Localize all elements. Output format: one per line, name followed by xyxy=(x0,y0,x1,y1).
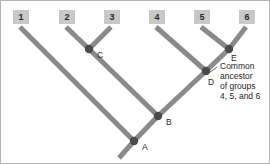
branch-tip-3-to-C xyxy=(89,27,111,49)
phylogenetic-tree-figure: 123456 ABCDE Commonancestorof groups4, 5… xyxy=(0,0,270,164)
taxon-box-5[interactable]: 5 xyxy=(194,10,210,24)
taxon-box-6[interactable]: 6 xyxy=(239,10,255,24)
taxon-label-1: 1 xyxy=(18,12,23,22)
taxon-box-3[interactable]: 3 xyxy=(104,10,120,24)
annotation-text: Commonancestorof groups4, 5, and 6 xyxy=(220,61,260,101)
branch-tip-2-to-C xyxy=(66,27,89,49)
tree-canvas: 123456 ABCDE Commonancestorof groups4, 5… xyxy=(1,1,270,164)
node-dot-E xyxy=(225,45,233,53)
node-label-C: C xyxy=(97,50,103,60)
annotation-text-line-4: 4, 5, and 6 xyxy=(220,91,260,101)
taxon-box-1[interactable]: 1 xyxy=(13,10,29,24)
node-dot-B xyxy=(154,112,162,120)
branch-tip-4-to-D xyxy=(156,27,206,71)
node-dot-A xyxy=(130,137,138,145)
node-label-D: D xyxy=(208,77,214,87)
branch-tip-1-to-A xyxy=(20,27,134,141)
taxon-box-2[interactable]: 2 xyxy=(59,10,75,24)
annotation-text-line-1: Common xyxy=(220,61,255,71)
node-dot-C xyxy=(85,45,93,53)
annotation-text-line-2: ancestor xyxy=(220,71,253,81)
annotation-text-line-3: of groups xyxy=(220,81,255,91)
taxon-label-4: 4 xyxy=(154,12,159,22)
taxon-boxes-group: 123456 xyxy=(13,10,255,24)
taxon-label-6: 6 xyxy=(244,12,249,22)
taxon-label-3: 3 xyxy=(109,12,114,22)
taxon-label-5: 5 xyxy=(199,12,204,22)
taxon-label-2: 2 xyxy=(64,12,69,22)
branch-tip-5-to-E xyxy=(201,27,229,49)
branch-D-to-B xyxy=(158,71,206,116)
taxon-box-4[interactable]: 4 xyxy=(149,10,165,24)
annotation-group: Commonancestorof groups4, 5, and 6 xyxy=(209,61,260,101)
node-dot-D xyxy=(202,67,210,75)
node-D[interactable]: D xyxy=(202,67,214,87)
node-label-A: A xyxy=(142,142,148,152)
branch-B-to-A xyxy=(134,116,158,141)
node-label-B: B xyxy=(166,117,172,127)
